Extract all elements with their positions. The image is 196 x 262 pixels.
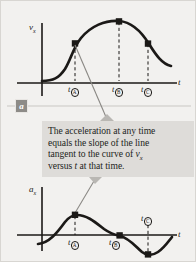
bottom-tick-label-c: tC [141, 215, 152, 226]
circled-a-marker: A [71, 88, 79, 96]
callout-line-3: tangent to the curve of vx [48, 148, 189, 160]
circled-c-marker: C [144, 217, 152, 225]
top-x-axis-label: t [178, 78, 181, 87]
callout-pointer-bottom [89, 177, 102, 184]
circled-b-marker: B [112, 241, 120, 249]
bottom-tick-label-b: tB [109, 239, 120, 250]
circled-a-marker: A [71, 241, 79, 249]
physics-figure: vx t tA tB tC a The acceleration at any … [0, 0, 196, 262]
figure-part-label: a [16, 100, 27, 112]
circled-c-marker: C [144, 88, 152, 96]
top-tick-label-c: tC [141, 86, 152, 97]
top-point-c [145, 40, 151, 46]
bottom-point-a [72, 212, 78, 218]
top-point-b [116, 18, 122, 24]
callout-line-1: The acceleration at any time [48, 125, 189, 137]
bottom-point-c [145, 251, 151, 257]
top-tick-label-b: tB [112, 86, 123, 97]
circled-b-marker: B [115, 88, 123, 96]
bottom-y-axis-label: ax [29, 185, 36, 194]
bottom-point-b [116, 232, 122, 238]
graph-bottom [17, 187, 177, 258]
leader-line-bottom [75, 181, 94, 213]
callout-line-2: equals the slope of the line [48, 137, 189, 149]
bottom-x-axis-label: t [178, 230, 181, 239]
top-tick-label-a: tA [68, 86, 79, 97]
top-y-axis-label: vx [29, 23, 36, 32]
callout-box: The acceleration at any time equals the … [42, 121, 194, 177]
velocity-curve [42, 21, 171, 81]
callout-pointer-top [100, 114, 114, 121]
graph-top [17, 18, 177, 96]
bottom-tick-label-a: tA [68, 239, 79, 250]
callout-line-4: versus t at that time. [48, 160, 189, 172]
